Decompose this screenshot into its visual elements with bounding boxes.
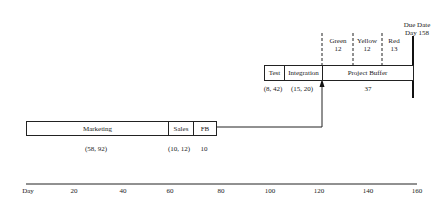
axis-tick: 160 <box>412 187 423 195</box>
feeding-buffer-label: FB <box>201 125 210 133</box>
feeding-buffer: FB <box>193 122 216 135</box>
due-date-label-line2: Day 158 <box>405 29 429 37</box>
zone-yellow-value: 12 <box>364 45 371 53</box>
zone-red-label: Red <box>388 37 399 45</box>
task-sales-label: Sales <box>174 125 189 133</box>
feeding-chain-bar: Marketing Sales FB <box>26 121 217 136</box>
project-buffer-estimate: 37 <box>365 85 372 93</box>
due-date-label-line1: Due Date <box>404 21 431 29</box>
task-test: Test <box>265 66 284 80</box>
zone-green-label: Green <box>329 37 346 45</box>
task-marketing-estimate: (58, 92) <box>85 145 107 153</box>
task-integration-estimate: (15, 20) <box>291 85 313 93</box>
axis-tick: 80 <box>218 187 225 195</box>
task-integration-label: Integration <box>288 69 319 77</box>
zone-red-value: 13 <box>391 45 398 53</box>
task-sales: Sales <box>168 122 193 135</box>
zone-yellow-label: Yellow <box>357 37 377 45</box>
feeding-buffer-estimate: 10 <box>201 145 208 153</box>
axis-tick: 60 <box>167 187 174 195</box>
axis-tick: 100 <box>265 187 276 195</box>
task-sales-estimate: (10, 12) <box>168 145 190 153</box>
task-test-estimate: (8, 42) <box>264 85 283 93</box>
task-test-label: Test <box>269 69 281 77</box>
axis-tick: 20 <box>71 187 78 195</box>
axis-tick: 40 <box>120 187 127 195</box>
task-integration: Integration <box>284 66 322 80</box>
diagram-lines <box>0 0 448 212</box>
project-buffer-label: Project Buffer <box>348 69 388 77</box>
critical-chain-bar: Test Integration Project Buffer <box>264 65 414 81</box>
task-marketing-label: Marketing <box>83 125 112 133</box>
zone-green-value: 12 <box>335 45 342 53</box>
axis-tick: 140 <box>363 187 374 195</box>
axis-label: Day <box>22 187 34 195</box>
project-buffer: Project Buffer <box>322 66 412 80</box>
axis-tick: 120 <box>314 187 325 195</box>
task-marketing: Marketing <box>27 122 168 135</box>
